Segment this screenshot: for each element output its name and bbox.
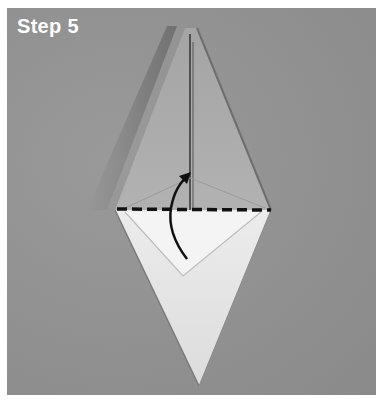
step-label: Step 5 [17,15,79,38]
origami-photo: Step 5 [7,8,376,395]
origami-diamond-illustration [7,8,376,395]
